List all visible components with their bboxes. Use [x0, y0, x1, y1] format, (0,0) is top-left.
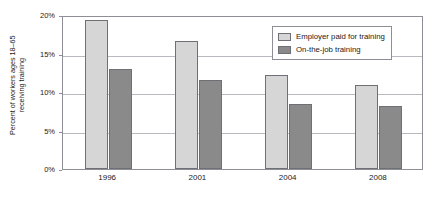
bar	[379, 106, 402, 169]
legend: Employer paid for training On-the-job tr…	[272, 26, 392, 60]
legend-swatch-icon	[278, 33, 291, 41]
legend-item-label: On-the-job training	[296, 45, 361, 54]
bar	[289, 104, 312, 169]
bar	[109, 69, 132, 169]
y-tick-label: 20%	[40, 12, 55, 20]
bar	[265, 75, 288, 169]
bar	[85, 20, 108, 169]
y-tick-label: 15%	[40, 51, 55, 59]
bar	[355, 85, 378, 169]
y-tick-label: 5%	[44, 128, 55, 136]
legend-item: On-the-job training	[278, 44, 385, 55]
y-tick-label: 10%	[40, 89, 55, 97]
bar	[175, 41, 198, 169]
x-tick-label: 2001	[188, 173, 206, 183]
bar	[199, 80, 222, 169]
x-tick-label: 1996	[98, 173, 116, 183]
bar-chart: Percent of workers ages 18–65 receiving …	[0, 0, 436, 197]
x-axis-labels: 1996200120042008	[62, 173, 423, 189]
legend-item-label: Employer paid for training	[296, 32, 385, 41]
y-tick-mark	[59, 170, 62, 171]
x-tick-label: 2004	[279, 173, 297, 183]
y-tick-label: 0%	[44, 166, 55, 174]
x-tick-label: 2008	[369, 173, 387, 183]
legend-item: Employer paid for training	[278, 31, 385, 42]
legend-swatch-icon	[278, 46, 291, 54]
y-axis-ticks: 0%5%10%15%20%	[0, 0, 60, 197]
